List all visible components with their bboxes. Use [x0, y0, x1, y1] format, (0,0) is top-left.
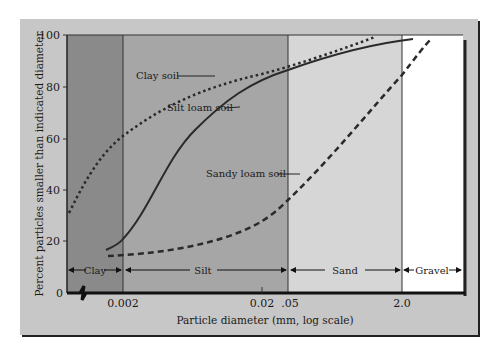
- gravel-region: [402, 35, 463, 293]
- sand-range-label: Sand: [332, 265, 358, 276]
- x-tick-2.0: 2.0: [393, 297, 411, 310]
- y-axis-label: Percent particles smaller than indicated…: [33, 31, 45, 297]
- silt-loam-soil-label: Silt loam soil: [167, 102, 233, 113]
- x-tick-0.002: 0.002: [107, 297, 139, 310]
- sandy-loam-soil-label: Sandy loam soil: [206, 168, 286, 179]
- y-tick-60: 60: [46, 133, 60, 146]
- clay-soil-label: Clay soil: [136, 70, 179, 81]
- x-axis-label: Particle diameter (mm, log scale): [176, 314, 353, 326]
- gravel-range-label: Gravel: [415, 265, 449, 276]
- y-tick-80: 80: [46, 81, 60, 94]
- silt-range-label: Silt: [194, 265, 211, 276]
- x-tick-0.02: 0.02: [250, 297, 275, 310]
- clay-range-label: Clay: [84, 265, 107, 276]
- clay-region: [67, 35, 123, 293]
- particle-size-chart: Clay soil Silt loam soil Sandy loam soil…: [0, 0, 498, 357]
- y-tick-40: 40: [46, 184, 60, 197]
- y-tick-20: 20: [46, 235, 60, 248]
- y-tick-0: 0: [56, 287, 63, 300]
- x-tick-0.05: .05: [281, 297, 299, 310]
- sand-region: [288, 35, 402, 293]
